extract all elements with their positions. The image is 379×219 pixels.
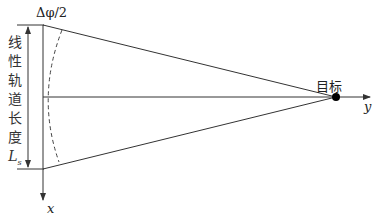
lower-ray — [43, 97, 336, 169]
dashed-arc — [48, 30, 62, 162]
diagram-geometry — [0, 0, 379, 219]
target-dot — [332, 93, 340, 101]
length-char: 线 — [4, 33, 26, 52]
length-char: 道 — [4, 90, 26, 109]
length-symbol: Ls — [4, 147, 26, 172]
length-char: 长 — [4, 109, 26, 128]
length-char: 度 — [4, 128, 26, 147]
x-axis-label: x — [47, 202, 54, 215]
angle-label: Δφ/2 — [36, 6, 67, 19]
upper-ray — [43, 25, 336, 97]
length-char: 性 — [4, 52, 26, 71]
diagram-canvas: Δφ/2 线 性 轨 道 长 度 Ls 目标 y x — [0, 0, 379, 219]
target-label: 目标 — [316, 80, 342, 93]
length-label: 线 性 轨 道 长 度 Ls — [4, 33, 26, 172]
y-axis-label: y — [364, 100, 371, 113]
length-char: 轨 — [4, 71, 26, 90]
